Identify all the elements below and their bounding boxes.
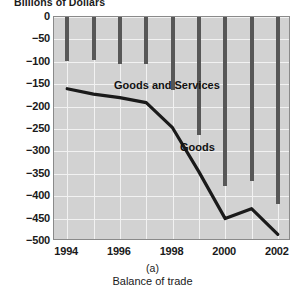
annotation-goods-and-services: Goods and Services [114,79,220,91]
y-axis-tick: −450 [2,212,50,224]
y-axis-tick: −200 [2,100,50,112]
line-series-goods [54,17,290,240]
x-axis-tick-labels: 19941996199820002002 [0,245,305,261]
panel-letter: (a) [0,262,305,274]
x-axis-tick: 2002 [265,245,289,257]
x-axis-tick: 2000 [212,245,236,257]
y-axis-tick: −350 [2,167,50,179]
annotation-goods: Goods [180,141,215,153]
y-axis-tick: −250 [2,122,50,134]
y-axis-tick: −50 [2,32,50,44]
y-axis-tick: −100 [2,55,50,67]
y-axis-tick: 0 [2,10,50,22]
y-axis-tick: −400 [2,189,50,201]
x-axis-tick: 1998 [160,245,184,257]
y-axis-tick: −150 [2,77,50,89]
balance-of-trade-figure: Billions of Dollars 0−50−100−150−200−250… [0,0,305,289]
x-axis-tick: 1996 [107,245,131,257]
x-axis-tick: 1994 [54,245,78,257]
figure-caption: Balance of trade [0,275,305,287]
plot-area: Goods and Services Goods [53,16,290,240]
y-axis-tick: −300 [2,144,50,156]
